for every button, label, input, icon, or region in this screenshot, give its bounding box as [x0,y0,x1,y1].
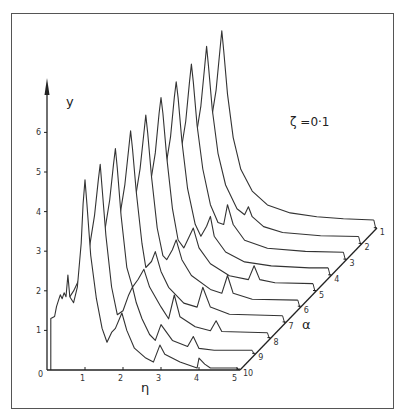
y-tick-label: 3 [36,247,41,256]
y-tick-label: 6 [36,128,41,137]
y-ticks: 123456 [36,128,47,335]
zeta-annotation: ζ =0·1 [290,115,329,129]
alpha-tick-label: 5 [319,291,324,300]
waterfall-chart: 123456 12345 12345678910 0 y η α ζ =0·1 [0,0,407,418]
curve-series [51,31,376,370]
alpha-tick-label: 10 [243,369,253,378]
eta-axis-title: η [141,380,149,395]
eta-tick-label: 2 [118,374,123,383]
alpha-tick-label: 4 [334,275,339,284]
alpha-tick-label: 3 [349,259,354,268]
alpha-axis-title: α [302,317,311,332]
y-tick-label: 4 [36,208,41,217]
y-tick-label: 2 [36,287,41,296]
eta-tick-label: 1 [80,374,85,383]
alpha-tick-label: 9 [258,353,263,362]
alpha-tick-label: 7 [289,322,294,331]
eta-tick-label: 4 [194,374,199,383]
eta-tick-label: 5 [232,374,237,383]
y-axis-arrow-icon [45,78,50,95]
eta-tick-label: 3 [156,374,161,383]
y-tick-label: 1 [36,326,41,335]
y-tick-label: 5 [36,168,41,177]
origin-label: 0 [38,370,43,379]
alpha-tick-label: 2 [365,243,370,252]
alpha-tick-label: 8 [273,338,278,347]
y-axis-title: y [66,94,74,109]
alpha-tick-label: 6 [304,306,309,315]
alpha-tick-label: 1 [380,228,385,237]
